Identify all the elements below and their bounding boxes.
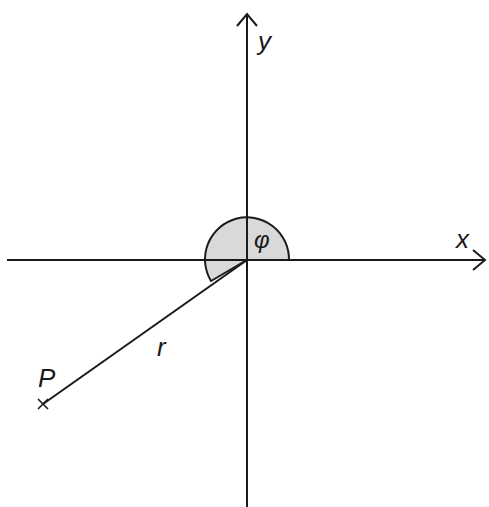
y-axis-label: y	[256, 26, 273, 56]
point-p-cross-icon	[38, 399, 48, 409]
x-axis-label: x	[454, 224, 470, 254]
radius-line	[43, 260, 247, 404]
angle-label: φ	[254, 226, 270, 253]
point-label: P	[38, 363, 56, 393]
radius-label: r	[157, 332, 167, 362]
polar-diagram: y x φ r P	[0, 0, 489, 507]
